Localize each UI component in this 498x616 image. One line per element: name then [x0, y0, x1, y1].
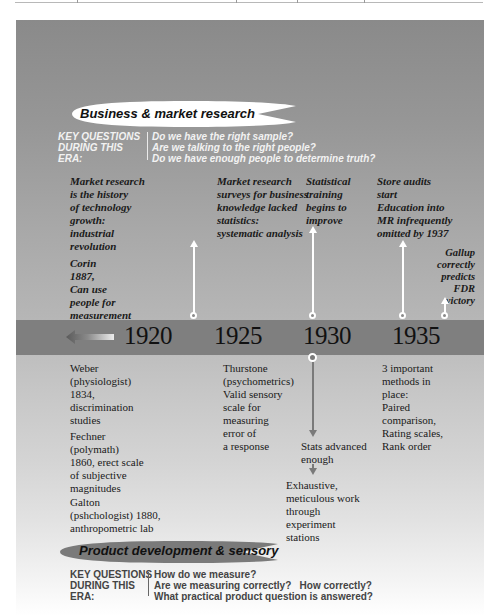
timeline-marker — [399, 312, 406, 319]
rule-tick — [364, 0, 365, 3]
event-note: Market research is the history of techno… — [70, 175, 145, 253]
event-note: Stats advanced enough — [301, 440, 367, 466]
arrow-down-icon — [309, 468, 317, 475]
rule-tick — [236, 0, 237, 3]
event-note: Education into MR infrequently omitted b… — [377, 201, 452, 240]
year-label-1925: 1925 — [214, 322, 262, 350]
event-note: Weber (physiologist) 1834, discriminatio… — [70, 362, 134, 427]
key-question: Do we have the right sample? — [152, 131, 293, 142]
connector-line — [312, 232, 314, 313]
key-question: Are we measuring correctly? How correctl… — [154, 580, 372, 591]
rule-tick — [297, 0, 298, 3]
left-arrow-icon — [66, 330, 114, 344]
event-note: Gallup correctly predicts FDR victory — [427, 247, 475, 307]
year-label-1930: 1930 — [303, 322, 351, 350]
key-question: Do we have enough people to determine tr… — [152, 153, 375, 164]
connector-line — [312, 362, 314, 430]
year-label-1935: 1935 — [392, 322, 440, 350]
key-question: How do we measure? — [154, 569, 256, 580]
era-title-product: Product development & sensory — [79, 543, 278, 558]
timeline-marker — [441, 312, 448, 319]
event-note: Statistical training begins to improve — [306, 175, 351, 227]
connector-line — [193, 246, 195, 313]
rule-tick — [77, 0, 78, 3]
event-note: 3 important methods in place: Paired com… — [382, 362, 443, 453]
timeline-marker — [308, 353, 317, 362]
key-question: Are we talking to the right people? — [152, 142, 316, 153]
event-note: Galton (pshchologist) 1880, anthropometr… — [70, 496, 160, 535]
top-rule — [15, 2, 483, 3]
key-questions-label-top: KEY QUESTIONS DURING THIS ERA: — [58, 131, 158, 164]
event-note: Store audits start — [377, 175, 431, 201]
event-note: Exhaustive, meticulous work through expe… — [286, 479, 360, 544]
key-question: What practical product question is answe… — [154, 591, 373, 602]
arrow-down-icon — [309, 430, 317, 437]
timeline-marker — [309, 312, 316, 319]
era-title-business: Business & market research — [80, 106, 255, 121]
event-note: Thurstone (psychometrics) Valid sensory … — [223, 362, 294, 453]
timeline-marker — [190, 312, 197, 319]
event-note: Fechner (polymath) 1860, erect scale of … — [70, 430, 144, 495]
key-questions-divider-bottom — [148, 572, 149, 596]
connector-line — [402, 246, 404, 313]
event-note: Corin 1887, Can use people for measureme… — [70, 257, 131, 322]
key-questions-divider-top — [147, 132, 148, 160]
year-label-1920: 1920 — [124, 322, 172, 350]
event-note: Market research surveys for business kno… — [217, 175, 308, 240]
